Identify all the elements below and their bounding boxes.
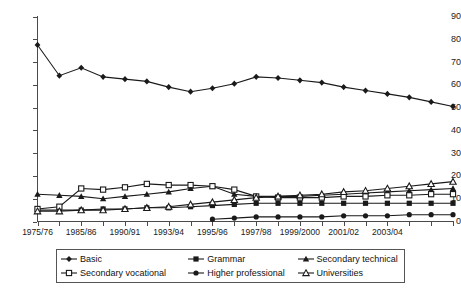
legend-row-2: Secondary vocational Higher professional… (60, 266, 401, 280)
chart-legend: Basic Grammar Secondary technical Second… (56, 249, 405, 283)
legend-label: Higher professional (207, 268, 285, 278)
series-universities (34, 178, 456, 213)
series-higher-professional (210, 212, 456, 222)
legend-label: Secondary technical (317, 254, 398, 264)
legend-item-higher-professional: Higher professional (187, 266, 296, 280)
legend-item-basic: Basic (60, 252, 187, 266)
legend-label: Secondary vocational (80, 268, 166, 278)
filled-diamond-icon (60, 253, 80, 265)
series-layer (0, 0, 461, 246)
filled-square-icon (187, 253, 207, 265)
open-square-icon (60, 267, 80, 279)
legend-label: Universities (317, 268, 364, 278)
open-triangle-icon (297, 267, 317, 279)
legend-row-1: Basic Grammar Secondary technical (60, 252, 401, 266)
line-chart: 0102030405060708090 1975/761985/861990/9… (0, 0, 461, 289)
legend-item-secondary-vocational: Secondary vocational (60, 266, 187, 280)
series-secondary-vocational (35, 181, 456, 211)
legend-item-universities: Universities (297, 266, 401, 280)
legend-label: Grammar (207, 254, 245, 264)
filled-triangle-icon (297, 253, 317, 265)
filled-circle-icon (187, 267, 207, 279)
series-grammar (35, 201, 456, 213)
legend-label: Basic (80, 254, 102, 264)
plot-area: 0102030405060708090 1975/761985/861990/9… (0, 0, 461, 246)
series-basic (35, 42, 456, 110)
legend-item-grammar: Grammar (187, 252, 296, 266)
legend-item-secondary-technical: Secondary technical (297, 252, 401, 266)
